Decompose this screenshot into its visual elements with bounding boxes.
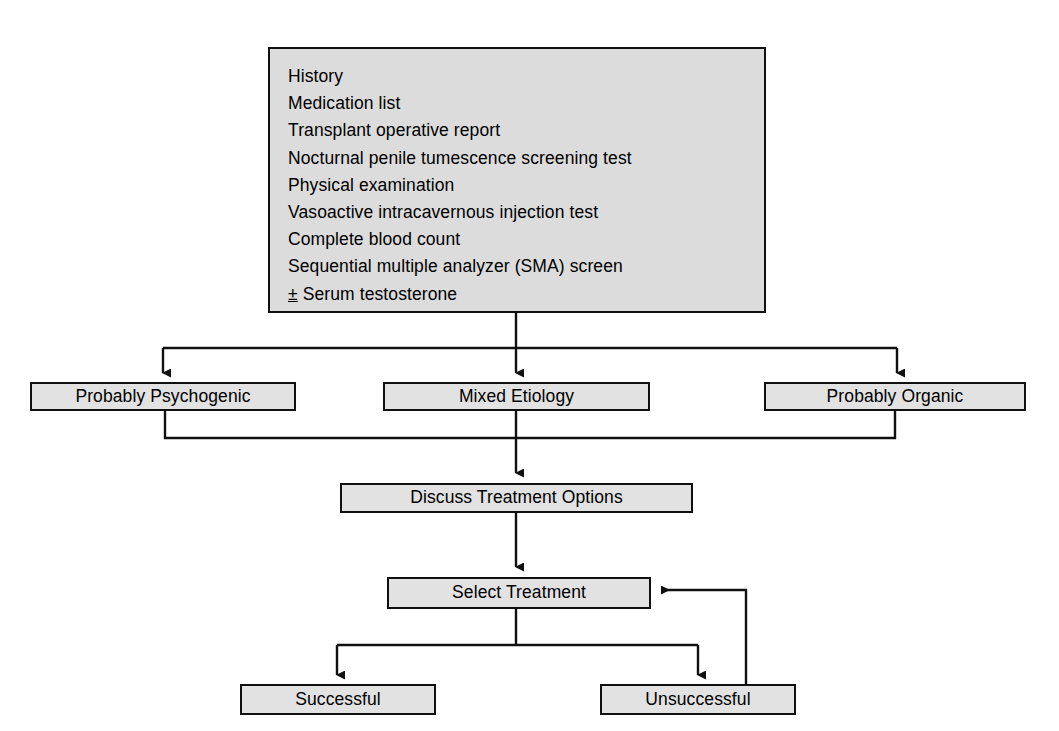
node-probably-organic: Probably Organic [764,382,1026,411]
edge-psychogenic-merge [165,411,516,438]
checklist-item-complete-blood-count: Complete blood count [288,226,632,253]
plus-minus-icon: ± [288,284,298,304]
checklist-item-vasoactive-intracavernous-injection-test: Vasoactive intracavernous injection test [288,199,632,226]
evaluation-item-list: History Medication list Transplant opera… [288,63,632,308]
checklist-item-transplant-operative-report: Transplant operative report [288,117,632,144]
edge-unsuccessful-retry-loop [662,590,746,684]
node-discuss-treatment-options-label: Discuss Treatment Options [410,489,623,507]
checklist-item-sma-screen: Sequential multiple analyzer (SMA) scree… [288,253,632,280]
edge-organic-merge [516,411,895,438]
node-probably-psychogenic: Probably Psychogenic [30,382,296,411]
checklist-item-physical-examination: Physical examination [288,172,632,199]
node-mixed-etiology-label: Mixed Etiology [459,388,574,406]
node-select-treatment: Select Treatment [387,577,651,609]
node-probably-organic-label: Probably Organic [827,388,964,406]
node-discuss-treatment-options: Discuss Treatment Options [340,483,693,513]
node-select-treatment-label: Select Treatment [452,584,586,602]
node-unsuccessful-label: Unsuccessful [645,691,750,709]
checklist-item-history: History [288,63,632,90]
node-mixed-etiology: Mixed Etiology [383,382,650,411]
checklist-item-medication-list: Medication list [288,90,632,117]
node-successful-label: Successful [295,691,381,709]
node-successful: Successful [240,684,436,715]
node-unsuccessful: Unsuccessful [600,684,796,715]
flowchart-diagram: History Medication list Transplant opera… [0,0,1059,731]
node-evaluation-checklist: History Medication list Transplant opera… [268,47,766,313]
checklist-item-nocturnal-penile-tumescence-screening-test: Nocturnal penile tumescence screening te… [288,145,632,172]
checklist-item-serum-testosterone: ± Serum testosterone [288,281,632,308]
node-probably-psychogenic-label: Probably Psychogenic [75,388,250,406]
checklist-item-serum-testosterone-label: Serum testosterone [298,284,457,304]
